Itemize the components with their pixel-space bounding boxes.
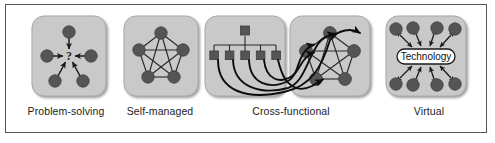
- node-lower-left: [142, 71, 154, 83]
- node-upper-right: [348, 45, 361, 58]
- technology-hub-label: Technology: [401, 51, 452, 62]
- diagram-canvas: ?: [0, 0, 495, 143]
- node-manager: [241, 26, 250, 35]
- node-dept-5: [272, 51, 281, 60]
- caption-virtual: Virtual: [383, 105, 475, 117]
- node-bottom-2: [407, 79, 419, 91]
- node-right: [85, 50, 97, 62]
- figure-root: ?: [0, 0, 495, 143]
- node-dept-1: [210, 51, 219, 60]
- node-dept-4: [256, 51, 265, 60]
- node-bottom-left: [49, 75, 61, 87]
- node-lower-right: [339, 73, 352, 86]
- node-lower-right: [168, 71, 180, 83]
- node-top: [63, 26, 75, 38]
- node-bottom-4: [449, 78, 461, 90]
- node-top-4: [449, 23, 461, 35]
- caption-problem-solving: Problem-solving: [18, 105, 114, 117]
- node-bottom-right: [77, 75, 89, 87]
- caption-cross-functional: Cross-functional: [205, 105, 377, 117]
- node-top-1: [390, 23, 402, 35]
- node-dept-2: [225, 51, 234, 60]
- panel-problem-solving: ?: [32, 16, 106, 96]
- node-dept-3: [241, 51, 250, 60]
- node-upper-right: [177, 44, 189, 56]
- panel-self-managed: [124, 16, 198, 96]
- node-bottom-3: [431, 79, 443, 91]
- node-upper-left: [133, 44, 145, 56]
- panel-virtual: Technology: [386, 16, 466, 96]
- caption-self-managed: Self-managed: [117, 105, 203, 117]
- question-mark-symbol: ?: [66, 49, 72, 63]
- node-left: [41, 50, 53, 62]
- node-top-2: [407, 22, 419, 34]
- node-apex: [155, 27, 167, 39]
- node-top-3: [431, 22, 443, 34]
- node-bottom-1: [390, 78, 402, 90]
